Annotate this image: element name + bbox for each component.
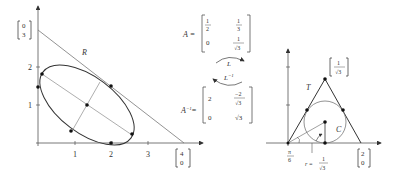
svg-text:0: 0 [208, 114, 212, 122]
x-intercept-vector: 4 0 [176, 149, 190, 167]
svg-text:2: 2 [208, 95, 212, 103]
left-figure: 1 2 3 1 2 R 0 3 [18, 6, 203, 167]
svg-text:0: 0 [206, 39, 210, 47]
region-label: R [81, 48, 87, 57]
svg-text:−2: −2 [235, 91, 241, 97]
diagram-canvas: 1 2 3 1 2 R 0 3 [0, 0, 414, 180]
svg-text:0: 0 [361, 159, 365, 167]
svg-text:1: 1 [237, 36, 240, 42]
svg-text:3: 3 [22, 31, 26, 39]
svg-text:√3: √3 [234, 45, 240, 51]
svg-text:L−1: L−1 [223, 73, 234, 82]
x-tick-1: 1 [73, 150, 77, 159]
svg-text:4: 4 [180, 150, 184, 158]
radius-label: r = 1 √3 [305, 156, 328, 171]
svg-text:0: 0 [22, 22, 26, 30]
svg-text:√3: √3 [235, 100, 241, 106]
matrix-A-inverse: A−1= 2 −2 √3 0 √3 [180, 87, 252, 123]
L-arrow: L [216, 57, 244, 68]
svg-text:√3: √3 [335, 69, 341, 75]
svg-text:6: 6 [288, 157, 291, 163]
right-figure: T C 1 √3 2 0 [266, 49, 381, 171]
svg-text:1: 1 [337, 60, 340, 66]
y-tick-2: 2 [28, 63, 32, 72]
svg-text:A−1=: A−1= [180, 106, 197, 115]
svg-text:3: 3 [237, 26, 240, 32]
triangle [288, 79, 361, 143]
x-tick-3: 3 [146, 150, 150, 159]
L-inverse-arrow: L−1 [213, 73, 242, 85]
svg-text:2: 2 [206, 26, 209, 32]
circle-label: C [336, 125, 342, 134]
svg-text:r =: r = [305, 161, 313, 167]
svg-text:0: 0 [180, 159, 184, 167]
angle-label: π 6 [287, 149, 294, 163]
y-tick-1: 1 [28, 101, 32, 110]
svg-text:π: π [288, 149, 291, 155]
x-vector: 2 0 [358, 149, 370, 167]
y-intercept-vector: 0 3 [18, 21, 31, 39]
svg-text:1: 1 [237, 18, 240, 24]
minor-axis [72, 82, 100, 131]
svg-text:1: 1 [206, 18, 209, 24]
triangle-points [287, 77, 345, 145]
svg-text:L: L [226, 60, 231, 68]
svg-text:√3: √3 [319, 165, 325, 171]
triangle-label: T [306, 83, 311, 92]
x-tick-2: 2 [109, 150, 113, 159]
svg-text:√3: √3 [235, 114, 243, 122]
svg-text:1: 1 [322, 156, 325, 162]
matrix-A: A = 1 2 1 3 0 1 √3 [182, 15, 250, 52]
apex-vector: 1 √3 [330, 58, 348, 76]
svg-text:2: 2 [361, 150, 365, 158]
svg-text:A =: A = [182, 30, 195, 39]
